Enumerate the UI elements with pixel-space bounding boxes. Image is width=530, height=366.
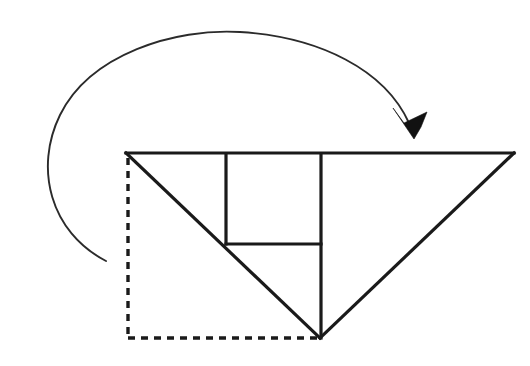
folding-diagram-svg [0, 0, 530, 366]
diagram-canvas [0, 0, 530, 366]
page-background [0, 0, 530, 366]
